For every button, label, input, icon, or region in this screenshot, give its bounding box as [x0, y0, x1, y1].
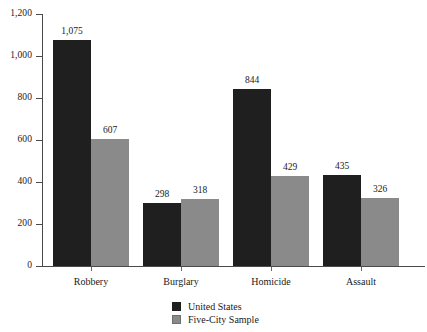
- y-axis-label: 400: [17, 177, 32, 187]
- bar-homicide-five-city-sample: [271, 176, 309, 266]
- y-axis-label: 800: [17, 93, 32, 103]
- y-axis-label: 0: [27, 261, 32, 271]
- bar-burglary-united-states: [143, 203, 181, 266]
- legend-label-five-city-sample: Five-City Sample: [188, 314, 259, 325]
- x-axis-category-label: Burglary: [136, 276, 226, 287]
- bar-value-label: 318: [181, 186, 219, 196]
- bar-value-label: 1,075: [53, 27, 91, 37]
- bar-robbery-five-city-sample: [91, 139, 129, 266]
- bar-chart: 02004006008001,0001,200 1,07560729831884…: [0, 0, 427, 332]
- bar-robbery-united-states: [53, 40, 91, 266]
- chart-legend: United States Five-City Sample: [172, 300, 259, 326]
- bar-value-label: 844: [233, 76, 271, 86]
- bar-value-label: 607: [91, 126, 129, 136]
- legend-swatch-icon-united-states: [172, 302, 181, 311]
- x-axis-tick: [271, 267, 272, 271]
- legend-swatch-icon-five-city-sample: [172, 315, 181, 324]
- bar-value-label: 298: [143, 190, 181, 200]
- y-axis-label: 600: [17, 135, 32, 145]
- bar-assault-united-states: [323, 175, 361, 266]
- bar-value-label: 429: [271, 163, 309, 173]
- y-axis-label: 1,200: [10, 9, 32, 19]
- x-axis-category-label: Robbery: [46, 276, 136, 287]
- legend-item-united-states: United States: [172, 300, 259, 313]
- x-axis-tick: [181, 267, 182, 271]
- x-axis-tick: [361, 267, 362, 271]
- x-axis-tick: [91, 267, 92, 271]
- x-axis-category-label: Homicide: [226, 276, 316, 287]
- bar-value-label: 326: [361, 185, 399, 195]
- y-axis-label: 200: [17, 219, 32, 229]
- bar-burglary-five-city-sample: [181, 199, 219, 266]
- bar-homicide-united-states: [233, 89, 271, 266]
- y-axis-tick: [36, 266, 42, 267]
- y-axis-label: 1,000: [10, 51, 32, 61]
- legend-item-five-city-sample: Five-City Sample: [172, 313, 259, 326]
- legend-label-united-states: United States: [188, 301, 242, 312]
- bar-assault-five-city-sample: [361, 198, 399, 266]
- x-axis-line: [42, 266, 425, 267]
- x-axis-category-label: Assault: [316, 276, 406, 287]
- bar-value-label: 435: [323, 162, 361, 172]
- plot-area: 1,075607298318844429435326: [42, 14, 420, 266]
